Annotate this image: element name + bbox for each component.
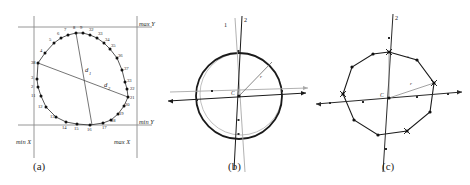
panel-b-drawing: 1 2 C r — [162, 0, 312, 185]
panel-c-drawing: 2 C r s — [312, 0, 470, 185]
axis-number-2: 2 — [244, 16, 247, 23]
point-label-21: 21 — [130, 95, 135, 100]
point-label-5: 4 — [40, 48, 43, 53]
point-label-16: 16 — [87, 127, 92, 132]
radius-line — [239, 62, 272, 96]
center-marker — [387, 96, 390, 99]
max-x-label: max X — [114, 138, 131, 145]
figure-container: 8 9 7 32 6 33 5 34 35 4 36 38 37 3 33 2 … — [0, 0, 470, 185]
point-label-34: 34 — [105, 37, 110, 42]
axis-number-1: 1 — [224, 21, 227, 28]
point-label-33: 33 — [98, 31, 103, 36]
point-label-14: 14 — [62, 125, 67, 130]
axis-number-2: 2 — [395, 14, 398, 21]
max-y-label: max Y — [139, 20, 156, 27]
axis-line-horizontal-dark — [168, 93, 306, 101]
center-label: C — [231, 90, 235, 96]
axis-arrow-horizontal-dark — [301, 91, 306, 96]
point-label-6: 5 — [49, 37, 52, 42]
chord-labels: d 1 d 2 — [85, 66, 111, 91]
chord-label-d1-subscript: 1 — [89, 71, 91, 76]
point-label-19: 19 — [119, 111, 124, 116]
point-label-17: 17 — [102, 125, 107, 130]
point-label-8: 7 — [64, 27, 67, 32]
panel-a-drawing: 8 9 7 32 6 33 5 34 35 4 36 38 37 3 33 2 … — [0, 0, 162, 185]
point-label-12: 12 — [38, 104, 43, 109]
axis-arrow-horizontal-right — [457, 90, 462, 95]
point-label-15: 15 — [74, 126, 79, 131]
point-label-36: 36 — [118, 53, 123, 58]
axis-arrow-horizontal-left — [316, 102, 321, 107]
point-number-labels: 8 9 7 32 6 33 5 34 35 4 36 38 37 3 33 2 … — [31, 25, 135, 132]
chord-d2 — [38, 63, 128, 97]
point-label-18: 18 — [111, 118, 116, 123]
polygon-vertices — [341, 50, 435, 136]
point-label-37: 37 — [124, 66, 129, 71]
axis-arrow-horizontal-light — [303, 86, 308, 90]
point-label-35: 35 — [111, 43, 116, 48]
min-x-label: min X — [16, 138, 32, 145]
point-label-10: 9 — [80, 25, 83, 30]
point-label-22: 22 — [130, 86, 135, 91]
chord-label-d2-subscript: 2 — [108, 86, 111, 91]
center-label: C — [380, 92, 384, 98]
caption-b: (b) — [228, 160, 241, 172]
chord-d1 — [76, 33, 92, 125]
polygon-outline — [343, 52, 434, 135]
point-label-11: 11 — [31, 93, 36, 98]
min-y-label: min Y — [139, 118, 155, 125]
point-label-9: 8 — [73, 25, 76, 30]
caption-a: (a) — [33, 160, 45, 172]
point-label-13: 13 — [50, 114, 55, 119]
axis-arrow-horizontal-dark-left — [168, 99, 173, 104]
axis-line-horizontal-light — [170, 88, 308, 92]
panel-c: 2 C r s — [312, 0, 470, 185]
side-label: s — [407, 54, 409, 59]
point-label-7: 6 — [57, 31, 60, 36]
panel-a: 8 9 7 32 6 33 5 34 35 4 36 38 37 3 33 2 … — [0, 0, 162, 185]
point-label-38: 33 — [127, 78, 132, 83]
point-label-20: 20 — [125, 102, 130, 107]
axis-line-2 — [234, 16, 242, 170]
point-label-32: 32 — [89, 27, 94, 32]
point-label-40: 38 — [31, 60, 36, 65]
caption-c: (c) — [382, 160, 394, 172]
panel-b: 1 2 C r — [162, 0, 312, 185]
radius-label: r — [410, 81, 412, 86]
center-marker — [237, 94, 240, 97]
radius-label: r — [260, 74, 262, 79]
